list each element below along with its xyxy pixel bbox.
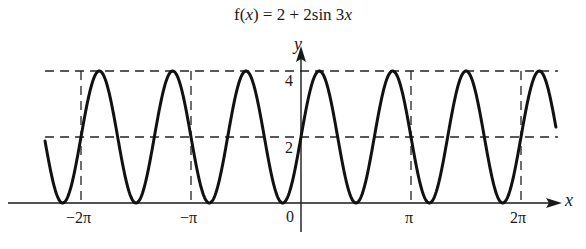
x-tick-pi: π (405, 210, 413, 226)
y-tick-2: 2 (285, 140, 293, 156)
origin-label: 0 (286, 209, 294, 225)
x-tick-neg-pi: −π (180, 210, 197, 226)
y-tick-4: 4 (285, 73, 293, 89)
x-axis-label: x (565, 191, 573, 209)
x-tick-neg-2pi: −2π (66, 210, 91, 226)
y-axis-label: y (294, 35, 302, 53)
x-tick-2pi: 2π (510, 210, 526, 226)
